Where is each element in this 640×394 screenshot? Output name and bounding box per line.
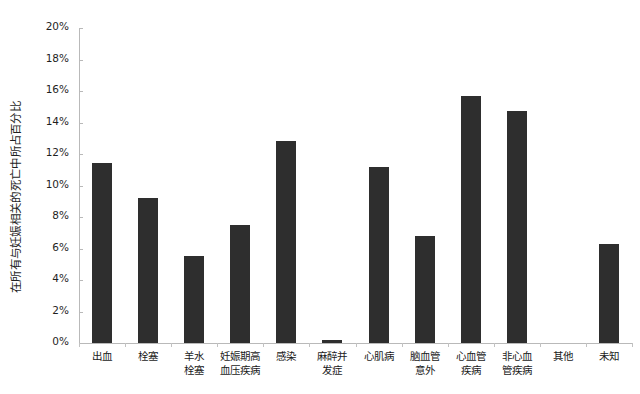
x-axis-tick-mark [586, 343, 587, 347]
x-axis-category-label: 未知 [580, 350, 638, 364]
x-axis-tick-mark [494, 343, 495, 347]
x-axis-tick-mark [448, 343, 449, 347]
y-axis-tick-label: 18% [46, 52, 69, 64]
x-axis-tick-mark [263, 343, 264, 347]
bar [415, 236, 435, 343]
y-axis-tick-label: 0% [52, 335, 69, 347]
x-axis-tick-mark [540, 343, 541, 347]
bar-chart: 在所有与妊娠相关的死亡中所占百分比 0%2%4%6%8%10%12%14%16%… [0, 0, 640, 394]
bar [507, 111, 527, 343]
y-axis-tick-label: 8% [52, 209, 69, 221]
y-axis-title: 在所有与妊娠相关的死亡中所占百分比 [0, 0, 30, 394]
y-axis-tick-label: 2% [52, 304, 69, 316]
bar [322, 340, 342, 343]
y-axis-tick-label: 10% [46, 178, 69, 190]
y-axis-tick-label: 14% [46, 115, 69, 127]
x-axis-tick-mark [79, 343, 80, 347]
x-axis-tick-mark [402, 343, 403, 347]
bar [138, 198, 158, 343]
x-axis-tick-mark [171, 343, 172, 347]
y-axis-tick-label: 16% [46, 83, 69, 95]
x-axis-tick-mark [125, 343, 126, 347]
y-axis-tick-label: 6% [52, 241, 69, 253]
bar [276, 141, 296, 343]
y-axis-tick-label: 20% [46, 20, 69, 32]
bar [230, 225, 250, 343]
bar [369, 167, 389, 343]
plot-area [79, 28, 632, 343]
x-axis-tick-mark [217, 343, 218, 347]
y-axis-tick-label: 4% [52, 272, 69, 284]
bar [599, 244, 619, 343]
bar [92, 163, 112, 343]
y-axis-tick-label: 12% [46, 146, 69, 158]
bar [461, 96, 481, 343]
x-axis-tick-mark [356, 343, 357, 347]
x-axis-tick-mark [632, 343, 633, 347]
x-axis-tick-mark [309, 343, 310, 347]
bar [184, 256, 204, 343]
